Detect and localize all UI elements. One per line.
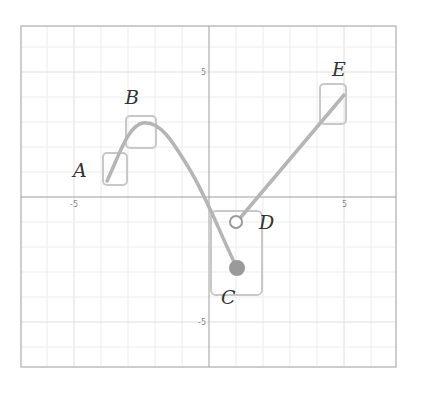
line-de [241, 95, 344, 217]
point-c-dot[interactable] [229, 260, 245, 276]
graph-canvas: -5 5 5 -5 A B C D E [0, 0, 423, 396]
point-a-label: A [71, 159, 87, 181]
point-c-label: C [221, 286, 236, 308]
point-d-label: D [258, 211, 274, 233]
point-b-label: B [124, 86, 139, 108]
y-tick-pos5: 5 [201, 68, 206, 77]
point-d-circle[interactable] [230, 216, 242, 228]
y-tick-neg5: -5 [198, 318, 206, 327]
x-tick-pos5: 5 [342, 200, 347, 209]
point-e-label: E [331, 58, 346, 80]
x-tick-neg5: -5 [70, 200, 78, 209]
